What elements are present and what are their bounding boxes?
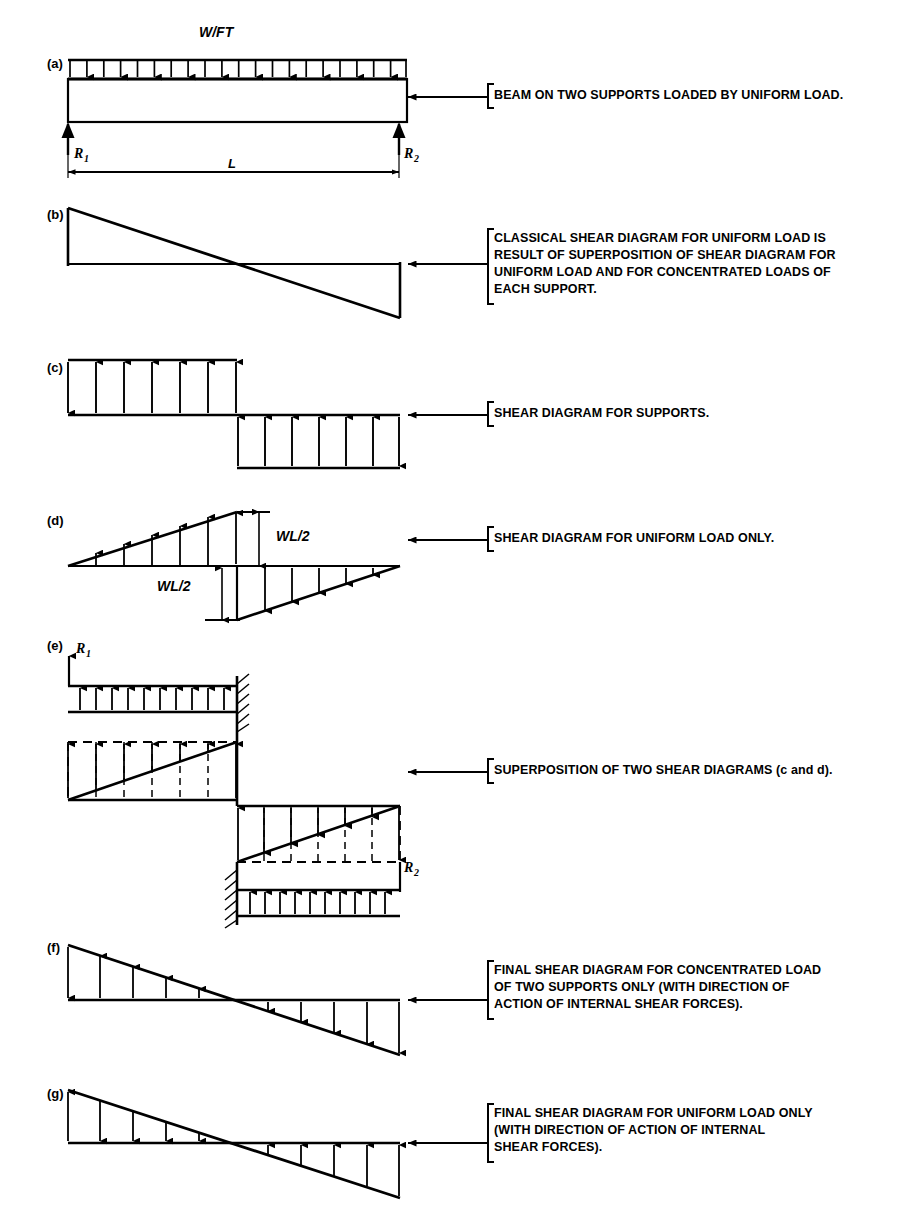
caption-c: SHEAR DIAGRAM FOR SUPPORTS. <box>487 405 709 422</box>
figure-root: (a) <box>0 0 907 1225</box>
reaction-right-label: R <box>403 146 413 161</box>
panel-letter-c: (c) <box>47 360 63 375</box>
caption-block-g: FINAL SHEAR DIAGRAM FOR UNIFORM LOAD ONL… <box>487 1103 813 1163</box>
caption-block-a: BEAM ON TWO SUPPORTS LOADED BY UNIFORM L… <box>487 83 843 109</box>
panel-g-drawing: (g) <box>47 1086 487 1198</box>
reaction-right-subscript-e: 2 <box>413 867 419 878</box>
panel-b-drawing: (b) <box>47 207 487 318</box>
caption-block-c: SHEAR DIAGRAM FOR SUPPORTS. <box>487 401 709 427</box>
beam-body <box>68 79 407 122</box>
panel-letter-e: (e) <box>47 638 63 653</box>
panel-d-drawing: (d) <box>47 512 487 620</box>
caption-f: FINAL SHEAR DIAGRAM FOR CONCENTRATED LOA… <box>487 962 821 1013</box>
caption-b: CLASSICAL SHEAR DIAGRAM FOR UNIFORM LOAD… <box>487 230 836 298</box>
caption-block-f: FINAL SHEAR DIAGRAM FOR CONCENTRATED LOA… <box>487 960 821 1020</box>
panel-f-drawing: (f) <box>47 940 487 1055</box>
panel-letter-d: (d) <box>47 513 64 528</box>
reaction-right-subscript: 2 <box>413 153 419 164</box>
caption-e: SUPERPOSITION OF TWO SHEAR DIAGRAMS (c a… <box>487 762 833 779</box>
figure-drawing: (a) <box>0 0 907 1225</box>
caption-a: BEAM ON TWO SUPPORTS LOADED BY UNIFORM L… <box>487 87 843 104</box>
upper-arrows-d <box>96 513 236 566</box>
uniform-load-label: W/FT <box>199 24 233 40</box>
left-superposition-e <box>68 742 237 800</box>
panel-a-drawing: (a) <box>47 56 487 178</box>
reaction-left-label-e: R <box>75 641 85 656</box>
reaction-left-subscript-e: 1 <box>86 648 91 659</box>
caption-g: FINAL SHEAR DIAGRAM FOR UNIFORM LOAD ONL… <box>487 1105 813 1156</box>
caption-d: SHEAR DIAGRAM FOR UNIFORM LOAD ONLY. <box>487 530 774 547</box>
panel-letter-g: (g) <box>47 1086 64 1101</box>
caption-block-e: SUPERPOSITION OF TWO SHEAR DIAGRAMS (c a… <box>487 758 833 784</box>
wl2-lower-label: WL/2 <box>157 578 190 594</box>
caption-block-d: SHEAR DIAGRAM FOR UNIFORM LOAD ONLY. <box>487 526 774 552</box>
panel-e-drawing: (e) R 1 <box>47 638 487 928</box>
wl2-upper-label: WL/2 <box>276 528 309 544</box>
panel-letter-f: (f) <box>47 940 60 955</box>
span-label: L <box>228 156 236 171</box>
reaction-right-label-e: R <box>403 860 413 875</box>
caption-block-b: CLASSICAL SHEAR DIAGRAM FOR UNIFORM LOAD… <box>487 228 836 305</box>
dimension-lower-d <box>205 568 240 620</box>
band-arrows-lower-e <box>250 892 385 914</box>
reaction-left-subscript: 1 <box>84 153 89 164</box>
panel-letter-a: (a) <box>47 56 63 71</box>
right-superposition-e <box>237 806 400 862</box>
panel-c-drawing: (c) <box>47 360 487 468</box>
wall-upper-e <box>237 674 249 732</box>
dimension-upper-d <box>237 512 270 566</box>
upper-arrows-c <box>68 362 236 413</box>
panel-letter-b: (b) <box>47 207 64 222</box>
uniform-load-arrows <box>70 60 406 77</box>
lower-arrows-c <box>238 417 399 466</box>
wall-lower-e <box>225 862 237 928</box>
band-arrows-e <box>80 688 224 710</box>
reaction-left-label: R <box>73 146 83 161</box>
